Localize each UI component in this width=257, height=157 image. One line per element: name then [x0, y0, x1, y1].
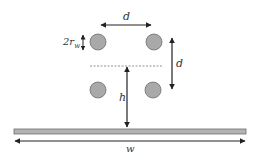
conductor-bottom-right: [145, 82, 161, 98]
conductor-geometry-diagram: d 2rw d h w: [0, 0, 257, 157]
ground-plate: [14, 129, 246, 134]
label-d-top: d: [123, 10, 130, 23]
label-diameter: 2rw: [62, 36, 80, 50]
label-h: h: [119, 91, 126, 104]
conductor-top-right: [146, 34, 162, 50]
conductor-top-left: [90, 34, 106, 50]
conductor-bottom-left: [90, 82, 106, 98]
label-w: w: [126, 143, 135, 154]
label-d-right: d: [176, 57, 183, 70]
